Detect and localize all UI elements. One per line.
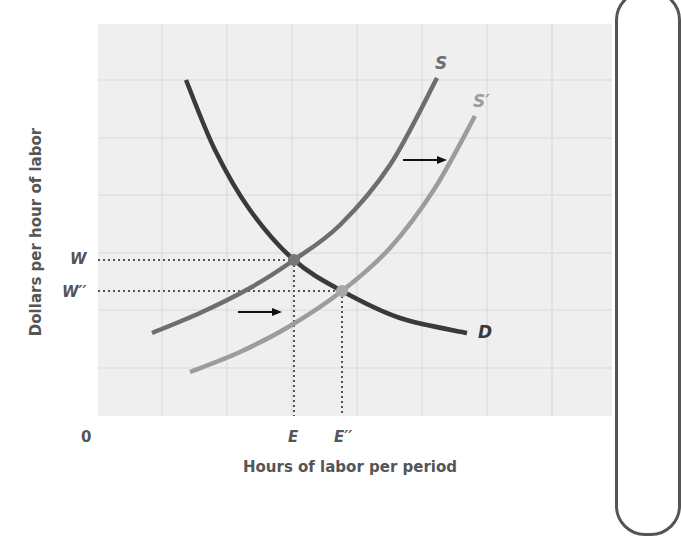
equilibrium-point-new [336, 285, 348, 297]
curve-label-d: D [478, 322, 492, 342]
page-edge-decoration [615, 0, 681, 536]
y-tick-w: W [70, 250, 87, 268]
y-axis-label: Dollars per hour of labor [27, 128, 45, 336]
y-tick-w-double-prime: W′′ [62, 283, 86, 301]
x-tick-e: E [288, 428, 298, 446]
curve-label-s-prime: S′ [473, 91, 490, 111]
equilibrium-point-original [288, 254, 300, 266]
origin-label: 0 [81, 428, 91, 446]
plot-area [98, 24, 612, 416]
curve-label-s: S [435, 53, 447, 73]
x-tick-e-double-prime: E′′ [334, 428, 352, 446]
x-axis-label: Hours of labor per period [243, 458, 457, 476]
